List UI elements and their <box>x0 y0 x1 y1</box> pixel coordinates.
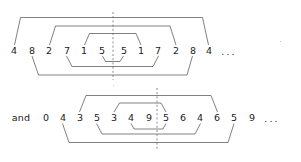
digit-token: 6 <box>180 113 186 123</box>
arc-bottom-above-3-5 <box>114 103 166 112</box>
arc-top-above-4-4 <box>15 18 209 46</box>
digit-token: 3 <box>77 113 83 123</box>
digit-token: 5 <box>94 113 100 123</box>
digit-token: 6 <box>214 113 220 123</box>
digit-token: 4 <box>11 46 17 56</box>
digit-token: 5 <box>121 46 127 56</box>
figure-root: 4 8 2 7 1 5 5 1 7 2 8 4 ... and 0 4 3 5 … <box>0 0 301 162</box>
digit-token: 0 <box>43 113 49 123</box>
digit-token: 1 <box>138 46 144 56</box>
ellipsis-top: ... <box>221 47 237 57</box>
digit-token: 5 <box>163 113 169 123</box>
arc-bottom-below-4-9 <box>131 124 166 130</box>
digit-token: 7 <box>64 46 70 56</box>
digit-token: 5 <box>99 46 105 56</box>
digit-token: 7 <box>155 46 161 56</box>
digit-token: 4 <box>197 113 203 123</box>
digit-token: 4 <box>206 46 212 56</box>
digit-token: 2 <box>173 46 179 56</box>
arc-top-below-8-8 <box>32 56 193 75</box>
digit-token: 3 <box>111 113 117 123</box>
digit-token: 5 <box>231 113 237 123</box>
digit-token: 4 <box>128 113 134 123</box>
arc-bottom-below-4-5 <box>63 124 235 143</box>
digit-token: 8 <box>29 46 35 56</box>
arc-layer <box>0 0 301 162</box>
scan-speck <box>113 85 114 86</box>
arc-bottom-above-3-6 <box>80 96 218 113</box>
digit-token: 9 <box>146 113 152 123</box>
digit-token: 8 <box>190 46 196 56</box>
digit-token: 2 <box>46 46 52 56</box>
scan-speck <box>280 41 281 42</box>
ellipsis-bottom: ... <box>264 114 280 124</box>
digit-token: 1 <box>81 46 87 56</box>
row-prefix-and: and <box>12 113 30 123</box>
digit-token: 9 <box>249 113 255 123</box>
digit-token: 4 <box>60 113 66 123</box>
